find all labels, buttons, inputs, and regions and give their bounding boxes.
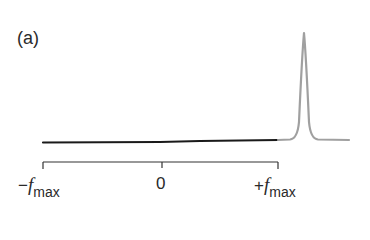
x-tick-label-neg-fmax: −fmax [18, 174, 60, 200]
out-of-band-peak-trace [278, 33, 349, 140]
x-tick-label-pos-fmax: +fmax [254, 174, 296, 200]
x-axis-bracket [43, 162, 278, 169]
x-tick-label-zero: 0 [156, 174, 165, 194]
in-band-trace [43, 140, 278, 143]
